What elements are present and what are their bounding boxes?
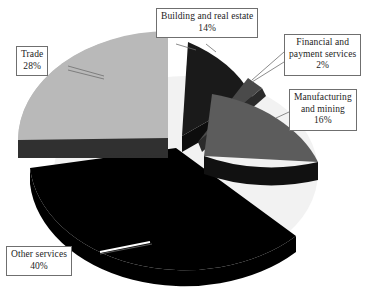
leader-line-financial [252, 52, 284, 80]
callout-trade: Trade 28% [16, 46, 48, 76]
leader-line-building [206, 44, 216, 52]
callout-financial-value: 2% [289, 60, 356, 72]
callout-manufacturing-label-line1: Manufacturing [294, 92, 352, 102]
callout-other-value: 40% [11, 261, 67, 273]
callout-manufacturing-label-line2: and mining [301, 104, 345, 114]
callout-trade-label: Trade [21, 49, 43, 59]
callout-trade-value: 28% [21, 61, 43, 73]
pie-chart: Building and real estate 14% Financial a… [0, 0, 378, 290]
callout-building-label: Building and real estate [161, 11, 253, 21]
callout-manufacturing-value: 16% [294, 115, 352, 127]
callout-financial-label-line2: payment services [289, 49, 356, 59]
callout-building-value: 14% [161, 23, 253, 35]
callout-building-real-estate: Building and real estate 14% [156, 8, 258, 38]
callout-other-label: Other services [11, 249, 67, 259]
callout-manufacturing-mining: Manufacturing and mining 16% [289, 89, 357, 131]
callout-financial-payment-services: Financial and payment services 2% [284, 34, 361, 76]
callout-financial-label-line1: Financial and [296, 37, 349, 47]
callout-other-services: Other services 40% [6, 246, 72, 276]
